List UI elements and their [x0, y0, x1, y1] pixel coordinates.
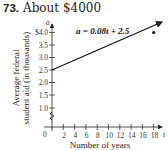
svg-text:4: 4 [73, 131, 77, 140]
x-axis-label: Number of years [70, 140, 131, 150]
chart: a t 0 1.0 1.5 2.0 2.5 3.0 3.5 $4.0 2 4 6 [0, 0, 168, 150]
x-ticks: 2 4 6 8 10 12 14 16 18 [62, 124, 158, 140]
x-axis-var: t [163, 130, 166, 139]
svg-text:1.5: 1.5 [39, 91, 49, 100]
svg-text:1.0: 1.0 [39, 104, 49, 113]
svg-text:$4.0: $4.0 [35, 28, 48, 37]
svg-text:student aid (in thousands): student aid (in thousands) [21, 32, 31, 125]
svg-text:Average federal: Average federal [11, 49, 21, 107]
svg-text:2.0: 2.0 [39, 78, 49, 87]
svg-text:2: 2 [62, 131, 66, 140]
svg-text:18: 18 [151, 131, 159, 140]
equation-label: a = 0.08t + 2.5 [76, 26, 130, 36]
svg-text:10: 10 [105, 131, 113, 140]
svg-text:6: 6 [85, 131, 89, 140]
svg-text:12: 12 [117, 131, 125, 140]
y-axis-label: Average federal student aid (in thousand… [11, 32, 31, 125]
svg-text:8: 8 [96, 131, 100, 140]
x-origin-label: 0 [43, 130, 47, 139]
data-point [152, 31, 155, 34]
svg-text:2.5: 2.5 [39, 66, 49, 75]
svg-text:3.5: 3.5 [39, 41, 49, 50]
svg-text:16: 16 [139, 131, 147, 140]
y-axis-var: a [46, 18, 50, 27]
svg-text:14: 14 [128, 131, 136, 140]
svg-text:3.0: 3.0 [39, 53, 49, 62]
